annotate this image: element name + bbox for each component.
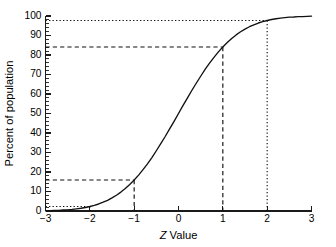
- y-tick-label: 50: [30, 107, 42, 118]
- y-tick-label: 100: [25, 10, 42, 21]
- x-tick-label: −2: [84, 213, 96, 224]
- x-axis-title: Z Value: [159, 229, 198, 241]
- x-axis-title-suffix: Value: [166, 229, 197, 241]
- x-tick-label: 0: [176, 213, 182, 224]
- y-tick-label: 60: [30, 88, 42, 99]
- x-tick-label: −3: [40, 213, 52, 224]
- y-tick-label: 90: [30, 29, 42, 40]
- x-tick-label: 1: [220, 213, 226, 224]
- y-tick-label: 70: [30, 68, 42, 79]
- y-tick-label: 40: [30, 127, 42, 138]
- cumulative-normal-distribution-chart: 0102030405060708090100 −3−2−10123 Percen…: [0, 0, 336, 247]
- y-tick-label: 30: [30, 146, 42, 157]
- y-axis-title: Percent of population: [3, 61, 15, 167]
- chart-svg: 0102030405060708090100 −3−2−10123 Percen…: [0, 0, 336, 247]
- x-tick-label: 2: [264, 213, 270, 224]
- x-tick-label: −1: [128, 213, 140, 224]
- x-tick-label: 3: [309, 213, 315, 224]
- y-tick-label: 10: [30, 185, 42, 196]
- y-tick-label: 20: [30, 166, 42, 177]
- y-tick-label: 80: [30, 49, 42, 60]
